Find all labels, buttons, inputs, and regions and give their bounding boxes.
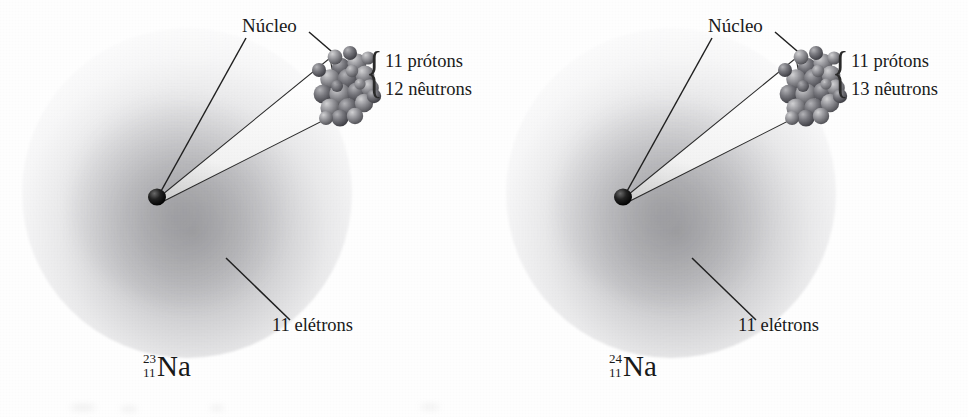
element-symbol: Na [157, 352, 191, 381]
scan-artifact [210, 405, 224, 411]
curly-brace: { [832, 44, 849, 100]
scan-artifact [120, 406, 138, 412]
label-electrons: 11 elétrons [272, 316, 353, 335]
label-nucleus: Núcleo [242, 16, 297, 36]
label-electrons: 11 elétrons [738, 316, 819, 335]
element-symbol: Na [623, 352, 657, 381]
atomic-number: 11 [609, 366, 622, 379]
nucleus-dot [148, 188, 166, 205]
label-nucleus: Núcleo [708, 16, 763, 36]
nucleus-dot [614, 188, 632, 205]
magnification-cone [157, 58, 340, 203]
mass-number: 23 [143, 352, 156, 365]
isotope-numbers: 23 11 [143, 352, 156, 381]
isotope-numbers: 24 11 [609, 352, 622, 381]
isotope-panel-na-24: Núcleo { 11 prótons 13 nêutrons 11 elétr… [484, 0, 968, 417]
curly-brace: { [366, 44, 383, 100]
isotope-notation: 23 11 Na [143, 352, 191, 381]
leader-line-electrons [692, 258, 756, 320]
mass-number: 24 [609, 352, 622, 365]
atomic-number: 11 [143, 366, 156, 379]
label-neutrons: 12 nêutrons [385, 80, 472, 99]
label-neutrons: 13 nêutrons [851, 80, 938, 99]
scan-artifact [70, 404, 96, 411]
magnification-cone [623, 58, 806, 203]
label-protons: 11 prótons [851, 52, 929, 71]
isotope-notation: 24 11 Na [609, 352, 657, 381]
isotope-panel-na-23: Núcleo { 11 prótons 12 nêutrons 11 elétr… [0, 0, 484, 417]
leader-line-electrons [226, 258, 290, 320]
scan-artifact [420, 404, 440, 410]
label-protons: 11 prótons [385, 52, 463, 71]
